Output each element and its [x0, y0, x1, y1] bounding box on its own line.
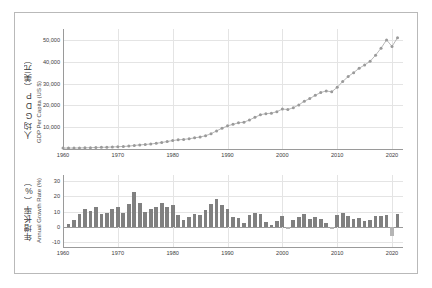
data-point-marker: [232, 123, 235, 126]
data-point-marker: [160, 141, 163, 144]
data-point-marker: [369, 60, 372, 63]
growth-rate-bar: [231, 217, 235, 227]
growth-rate-bar: [127, 204, 131, 227]
growth-rate-bar: [182, 220, 186, 227]
lower-plot-area: -1001020301960197019801990200020102020: [63, 175, 403, 247]
growth-rate-bar: [138, 203, 142, 228]
growth-rate-bar: [280, 216, 284, 227]
growth-rate-bar: [286, 227, 290, 229]
data-point-marker: [374, 54, 377, 57]
gridline-vertical: [337, 175, 338, 247]
growth-rate-bar: [357, 218, 361, 227]
growth-rate-bar: [154, 207, 158, 227]
x-axis-tick-label: 2020: [386, 152, 398, 158]
data-point-marker: [182, 138, 185, 141]
x-axis-spine: [63, 149, 403, 150]
data-point-marker: [286, 108, 289, 111]
growth-rate-bar: [346, 216, 350, 227]
growth-rate-bar: [363, 221, 367, 227]
growth-rate-bar: [149, 209, 153, 227]
y-axis-tick-label: 10,000: [43, 124, 60, 130]
data-point-marker: [259, 113, 262, 116]
data-point-marker: [308, 97, 311, 100]
data-point-marker: [177, 138, 180, 141]
gridline-horizontal: [63, 242, 403, 243]
y-axis-tick-label: 10: [54, 209, 60, 215]
x-axis-spine: [63, 247, 403, 248]
data-point-marker: [166, 140, 169, 143]
data-point-marker: [363, 64, 366, 67]
data-point-marker: [193, 136, 196, 139]
growth-rate-bar: [176, 215, 180, 227]
x-axis-tick-label: 1990: [221, 250, 233, 256]
chart-frame: 人均GDP（美元） GDP Per Capita (US $) 10,00020…: [14, 12, 418, 274]
growth-rate-bar: [302, 214, 306, 227]
y-axis-spine: [63, 175, 64, 247]
growth-rate-bar: [270, 225, 274, 227]
data-point-marker: [155, 142, 158, 145]
gridline-horizontal: [63, 227, 403, 228]
gridline-vertical: [282, 175, 283, 247]
growth-rate-bar: [242, 223, 246, 227]
growth-rate-bar: [110, 209, 114, 228]
data-point-marker: [221, 127, 224, 130]
growth-rate-bar: [160, 203, 164, 227]
data-point-marker: [204, 134, 207, 137]
data-point-marker: [325, 89, 328, 92]
growth-rate-bar: [390, 227, 394, 236]
growth-rate-bar: [341, 213, 345, 227]
x-axis-tick-label: 2000: [276, 152, 288, 158]
annual-growth-rate-panel: 年增长率（%） Annual Growth Rate (%) -10010203…: [15, 165, 419, 275]
upper-plot-area: 10,00020,00030,00040,00050,0001960197019…: [63, 29, 403, 149]
growth-rate-bar: [248, 215, 252, 227]
data-point-marker: [347, 75, 350, 78]
gridline-horizontal: [63, 181, 403, 182]
data-point-marker: [226, 124, 229, 127]
data-point-marker: [248, 118, 251, 121]
data-point-marker: [396, 36, 399, 39]
x-axis-tick-label: 1980: [166, 250, 178, 256]
x-axis-tick-label: 2000: [276, 250, 288, 256]
growth-rate-bar: [171, 205, 175, 228]
data-point-marker: [270, 112, 273, 115]
growth-rate-bar: [116, 207, 120, 227]
data-point-marker: [319, 91, 322, 94]
data-point-marker: [330, 90, 333, 93]
data-point-marker: [237, 121, 240, 124]
data-point-marker: [275, 110, 278, 113]
data-point-marker: [264, 112, 267, 115]
y-axis-tick-label: 30,000: [43, 81, 60, 87]
growth-rate-bar: [335, 215, 339, 227]
data-point-marker: [303, 100, 306, 103]
x-axis-tick-label: 1980: [166, 152, 178, 158]
data-point-marker: [385, 38, 388, 41]
growth-rate-bar: [308, 219, 312, 227]
y-axis-tick-label: 50,000: [43, 37, 60, 43]
growth-rate-bar: [220, 205, 224, 227]
growth-rate-bar: [72, 220, 76, 227]
growth-rate-bar: [198, 215, 202, 227]
growth-rate-bar: [67, 224, 71, 228]
growth-rate-bar: [264, 222, 268, 227]
growth-rate-bar: [385, 215, 389, 228]
data-point-marker: [253, 116, 256, 119]
growth-rate-bar: [215, 199, 219, 227]
data-point-marker: [391, 45, 394, 48]
data-point-marker: [292, 106, 295, 109]
y-axis-tick-label: 0: [57, 224, 60, 230]
growth-rate-bar: [143, 212, 147, 227]
growth-rate-bar: [259, 214, 263, 227]
data-point-marker: [122, 145, 125, 148]
growth-rate-bar: [330, 227, 334, 229]
upper-y-axis-title-cjk: 人均GDP（美元）: [23, 39, 35, 139]
growth-rate-bar: [132, 192, 136, 227]
growth-rate-bar: [291, 220, 295, 227]
growth-rate-bar: [165, 207, 169, 227]
growth-rate-bar: [83, 209, 87, 227]
x-axis-tick-label: 1960: [57, 152, 69, 158]
data-point-marker: [242, 121, 245, 124]
y-axis-tick-label: -10: [52, 239, 60, 245]
data-point-marker: [144, 143, 147, 146]
data-point-marker: [297, 103, 300, 106]
data-point-marker: [116, 145, 119, 148]
